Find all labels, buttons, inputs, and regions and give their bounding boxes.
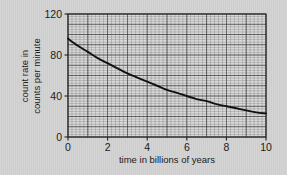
y-tick-label: 40: [50, 90, 62, 102]
y-axis-title-line2: counts per minute: [31, 38, 42, 114]
y-axis-title-line1: count rate in: [19, 50, 30, 102]
x-tick-label: 8: [223, 141, 229, 153]
radioactive-decay-chart: 0246810 04080120 time in billions of yea…: [0, 0, 287, 175]
y-axis-tick-labels: 04080120: [44, 8, 62, 143]
x-axis-title: time in billions of years: [119, 154, 215, 165]
x-tick-label: 2: [105, 141, 111, 153]
x-tick-label: 4: [144, 141, 150, 153]
x-tick-label: 0: [65, 141, 71, 153]
y-tick-label: 80: [50, 49, 62, 61]
x-tick-label: 10: [260, 141, 272, 153]
x-tick-label: 6: [184, 141, 190, 153]
x-axis-tick-labels: 0246810: [65, 141, 272, 153]
y-tick-label: 120: [44, 8, 62, 20]
y-tick-label: 0: [56, 131, 62, 143]
